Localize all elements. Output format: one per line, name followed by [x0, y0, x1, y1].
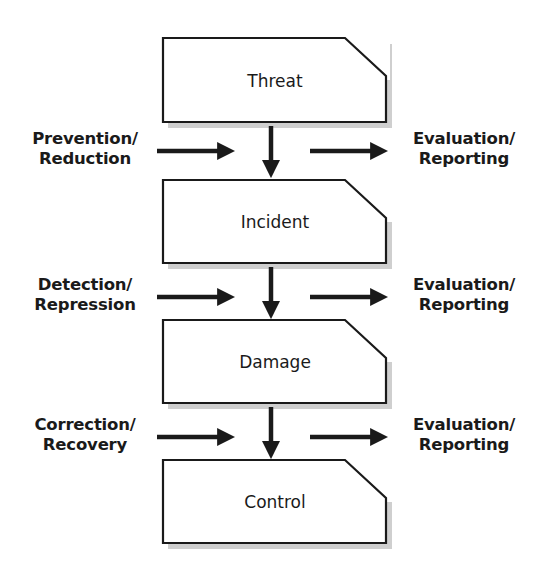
output-label-line2: Reporting [396, 435, 532, 455]
stage-label-incident: Incident [163, 212, 387, 232]
stage-label-threat: Threat [163, 71, 387, 91]
input-label-line2: Recovery [18, 435, 152, 455]
input-label-line1: Prevention/ [18, 129, 152, 149]
stage-label-control: Control [163, 492, 387, 512]
output-label-line2: Reporting [396, 295, 532, 315]
input-label-line1: Correction/ [18, 415, 152, 435]
input-label-line2: Reduction [18, 149, 152, 169]
input-label-line1: Detection/ [18, 275, 152, 295]
output-label-evaluation-reporting-2: Evaluation/ Reporting [396, 275, 532, 315]
output-label-evaluation-reporting-1: Evaluation/ Reporting [396, 129, 532, 169]
input-label-correction-recovery: Correction/ Recovery [18, 415, 152, 455]
input-label-detection-repression: Detection/ Repression [18, 275, 152, 315]
output-label-line2: Reporting [396, 149, 532, 169]
output-label-line1: Evaluation/ [396, 129, 532, 149]
input-label-prevention-reduction: Prevention/ Reduction [18, 129, 152, 169]
output-label-evaluation-reporting-3: Evaluation/ Reporting [396, 415, 532, 455]
input-label-line2: Repression [18, 295, 152, 315]
diagram-canvas: Threat Incident Damage Control Preventio… [0, 0, 543, 577]
stage-label-damage: Damage [163, 352, 387, 372]
output-label-line1: Evaluation/ [396, 415, 532, 435]
output-label-line1: Evaluation/ [396, 275, 532, 295]
